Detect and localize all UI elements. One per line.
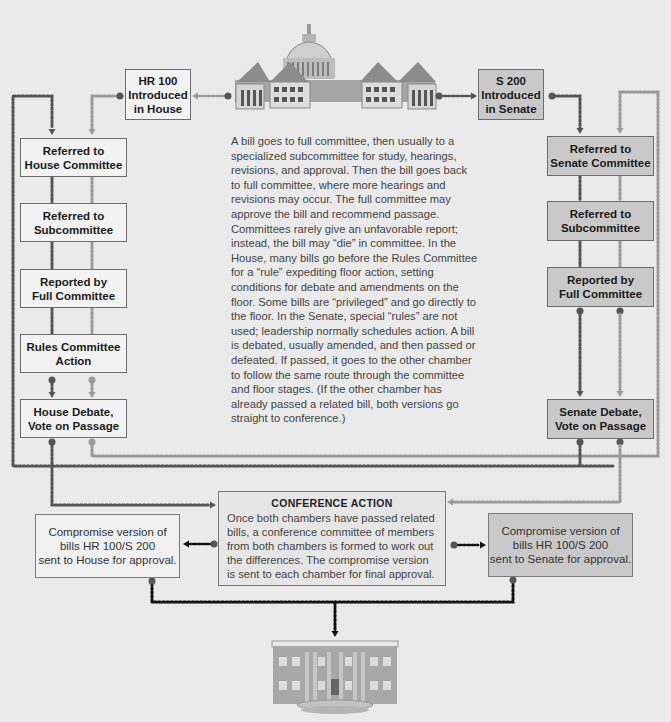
white-house-icon	[272, 641, 398, 714]
step-label: Reported by Full Committee	[559, 273, 642, 301]
compromise-label: Compromise version of bills HR 100/S 200…	[490, 524, 631, 566]
connector-dot	[211, 541, 218, 548]
capitol-building-icon	[235, 24, 436, 109]
senate-introduced-label: S 200 Introduced in Senate	[481, 74, 540, 116]
arrow-icon	[617, 128, 624, 134]
senate-step-debate: Senate Debate, Vote on Passage	[547, 399, 654, 439]
connector-senate-to-conference	[452, 445, 620, 502]
compromise-label: Compromise version of bills HR 100/S 200…	[38, 525, 176, 567]
step-label: Referred to Subcommittee	[561, 207, 640, 235]
arrow-icon	[49, 129, 56, 135]
connector-dot	[549, 93, 556, 100]
step-label: Referred to House Committee	[25, 144, 123, 172]
step-label: Rules Committee Action	[27, 340, 121, 368]
arrow-icon	[89, 129, 96, 135]
senate-step-subcommittee: Referred to Subcommittee	[547, 201, 654, 241]
step-label: Referred to Subcommittee	[34, 209, 113, 237]
arrow-icon	[49, 392, 56, 398]
arrow-icon	[192, 93, 198, 100]
arrow-icon	[471, 93, 477, 100]
house-introduced-label: HR 100 Introduced in House	[128, 74, 187, 116]
house-compromise-box: Compromise version of bills HR 100/S 200…	[35, 514, 180, 578]
arrow-icon	[89, 392, 96, 398]
senate-step-committee: Referred to Senate Committee	[547, 136, 654, 176]
connector-dot	[436, 93, 443, 100]
step-label: Senate Debate, Vote on Passage	[555, 405, 646, 433]
step-label: Reported by Full Committee	[32, 275, 115, 303]
connector-dot	[451, 542, 458, 549]
senate-step-full-committee: Reported by Full Committee	[547, 267, 654, 307]
step-label: Referred to Senate Committee	[550, 142, 650, 170]
connector-dot	[149, 578, 156, 585]
connector-house-to-conference	[52, 445, 210, 505]
house-step-debate: House Debate, Vote on Passage	[20, 399, 127, 438]
house-step-committee: Referred to House Committee	[20, 138, 127, 177]
senate-introduced-box: S 200 Introduced in Senate	[478, 69, 544, 120]
senate-compromise-box: Compromise version of bills HR 100/S 200…	[488, 513, 633, 577]
arrow-icon	[577, 128, 584, 134]
house-introduced-box: HR 100 Introduced in House	[125, 69, 191, 120]
house-step-full-committee: Reported by Full Committee	[20, 269, 127, 308]
conference-body: Once both chambers have passed related b…	[227, 511, 437, 581]
house-step-subcommittee: Referred to Subcommittee	[20, 203, 127, 242]
arrow-icon	[183, 541, 189, 548]
conference-title: CONFERENCE ACTION	[227, 497, 437, 509]
arrow-icon	[577, 391, 584, 397]
connector-dot	[225, 93, 232, 100]
conference-action-box: CONFERENCE ACTION Once both chambers hav…	[218, 491, 446, 586]
connector-dot	[117, 93, 124, 100]
arrow-icon	[332, 631, 339, 637]
arrow-icon	[210, 502, 216, 509]
connector-house-intro	[92, 96, 119, 128]
connector-senate-intro	[553, 96, 580, 128]
arrow-icon	[617, 391, 624, 397]
step-label: House Debate, Vote on Passage	[28, 405, 119, 433]
arrow-icon	[447, 499, 453, 506]
arrow-icon	[480, 542, 486, 549]
connector-dot	[510, 577, 517, 584]
process-explanation: A bill goes to full committee, then usua…	[231, 134, 479, 426]
house-step-rules-committee: Rules Committee Action	[20, 334, 127, 373]
